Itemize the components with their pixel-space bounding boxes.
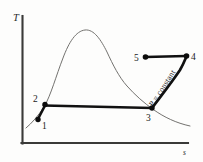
state-point-2-marker bbox=[42, 102, 47, 107]
state-label-4: 4 bbox=[191, 52, 196, 62]
t-s-diagram-figure: T s 1 2 3 4 5 P = constant bbox=[0, 0, 203, 162]
state-label-1: 1 bbox=[42, 121, 47, 131]
process-line-5-4 bbox=[146, 56, 187, 57]
y-axis-label: T bbox=[13, 12, 20, 23]
process-line-2-3 bbox=[44, 106, 152, 109]
state-label-3: 3 bbox=[146, 113, 151, 123]
pressure-constant-label: P = constant bbox=[147, 68, 178, 108]
state-label-2: 2 bbox=[33, 94, 38, 104]
state-point-4-marker bbox=[184, 53, 190, 59]
state-point-5-marker bbox=[143, 54, 149, 60]
state-label-5: 5 bbox=[134, 53, 139, 63]
x-axis-label: s bbox=[183, 148, 186, 157]
state-point-1-marker bbox=[35, 117, 40, 122]
